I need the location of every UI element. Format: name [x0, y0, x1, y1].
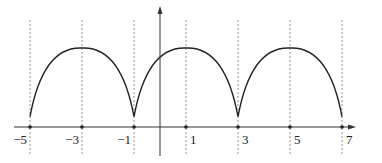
- function-curve: [30, 48, 342, 117]
- tick-label: 7: [346, 132, 353, 147]
- chart: −5−3−11357: [0, 0, 382, 163]
- tick-dot: [236, 125, 240, 129]
- tick-labels: −5−3−11357: [13, 132, 353, 147]
- tick-dot: [132, 125, 136, 129]
- tick-label: −5: [13, 132, 27, 147]
- tick-dot: [80, 125, 84, 129]
- tick-dot: [28, 125, 32, 129]
- tick-label: 5: [294, 132, 301, 147]
- y-axis-arrow-icon: [158, 6, 163, 14]
- x-axis-arrow-icon: [348, 125, 356, 130]
- tick-label: 1: [190, 132, 197, 147]
- tick-dot: [340, 125, 344, 129]
- tick-dot: [288, 125, 292, 129]
- curve: [30, 48, 342, 117]
- tick-dot: [184, 125, 188, 129]
- tick-label: 3: [242, 132, 249, 147]
- tick-label: −3: [65, 132, 79, 147]
- tick-label: −1: [117, 132, 131, 147]
